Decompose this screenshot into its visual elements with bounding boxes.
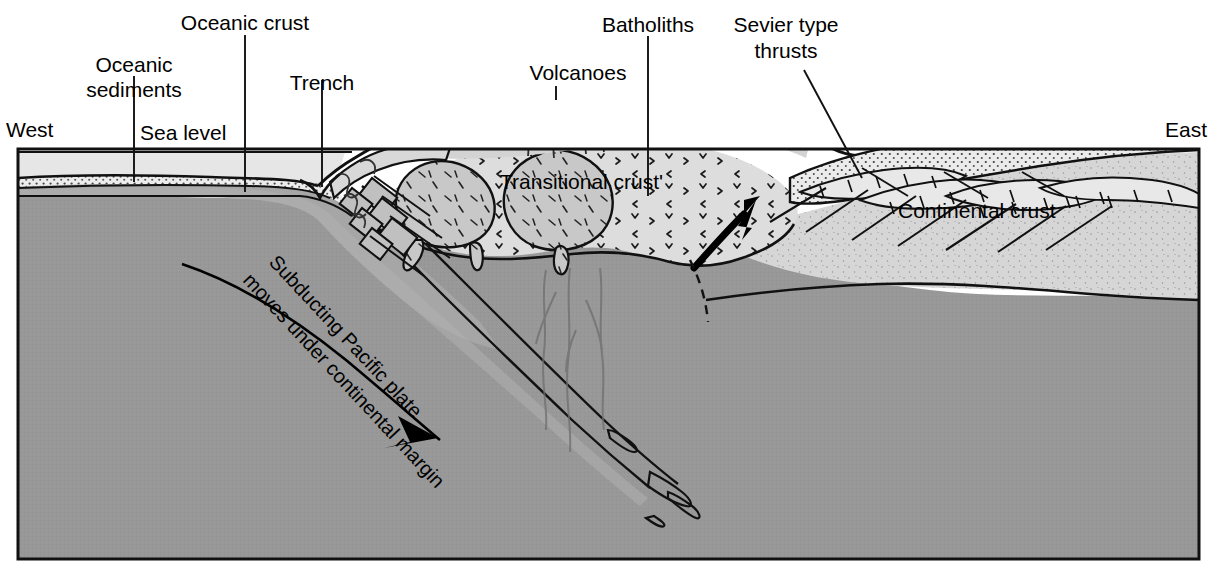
label-sea-level: Sea level [140, 120, 226, 145]
label-continental-crust: Continental crust [898, 198, 1056, 223]
cross-section-figure [0, 0, 1217, 580]
label-transitional-crust: Transitional crust' [500, 169, 663, 194]
label-oceanic-crust: Oceanic crust [181, 10, 309, 35]
label-batholiths: Batholiths [602, 12, 694, 37]
diagram-canvas: Oceanic sediments Oceanic crust West Sea… [0, 0, 1217, 580]
label-trench: Trench [290, 70, 355, 95]
label-sevier-thrusts-line2: thrusts [733, 38, 838, 64]
label-sevier-thrusts: Sevier type thrusts [733, 12, 838, 64]
section-body [18, 93, 1199, 559]
label-west: West [6, 117, 53, 142]
label-oceanic-sediments-line2: sediments [86, 77, 182, 102]
label-oceanic-sediments: Oceanic sediments [86, 52, 182, 102]
volcano-cones [514, 94, 611, 146]
label-sevier-thrusts-line1: Sevier type [733, 12, 838, 38]
label-volcanoes: Volcanoes [530, 60, 627, 85]
label-east: East [1165, 117, 1207, 142]
label-oceanic-sediments-line1: Oceanic [86, 52, 182, 77]
